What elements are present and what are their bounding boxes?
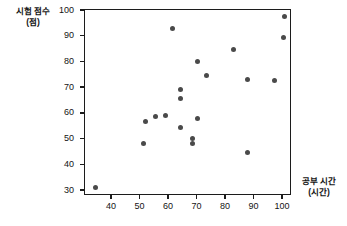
x-tick-mark [224, 195, 226, 199]
x-tick-mark [167, 195, 169, 199]
x-tick-label: 80 [214, 202, 236, 211]
y-axis-title-unit: (점) [2, 17, 64, 28]
y-tick-label: 100 [52, 6, 74, 15]
plot-frame [84, 9, 291, 195]
y-tick-mark [80, 112, 84, 114]
y-tick-mark [80, 86, 84, 88]
y-tick-label: 60 [52, 108, 74, 117]
y-tick-label: 50 [52, 134, 74, 143]
x-tick-label: 100 [271, 202, 293, 211]
x-tick-mark [253, 195, 255, 199]
x-tick-mark [196, 195, 198, 199]
y-tick-mark [80, 138, 84, 140]
y-tick-label: 90 [52, 31, 74, 40]
y-tick-label: 40 [52, 160, 74, 169]
x-tick-label: 70 [186, 202, 208, 211]
x-tick-label: 40 [100, 202, 122, 211]
y-tick-mark [80, 35, 84, 37]
x-tick-mark [281, 195, 283, 199]
scatter-plot-figure: 시험 점수 (점) 공부 시간 (시간) 30405060708090100 4… [0, 0, 347, 226]
x-tick-mark [139, 195, 141, 199]
x-axis-title-text: 공부 시간 [292, 176, 346, 187]
x-tick-label: 60 [157, 202, 179, 211]
x-axis-title-unit: (시간) [292, 187, 346, 198]
y-tick-label: 70 [52, 83, 74, 92]
x-tick-label: 50 [129, 202, 151, 211]
x-axis-title: 공부 시간 (시간) [292, 176, 346, 198]
y-tick-mark [80, 164, 84, 166]
y-tick-mark [80, 61, 84, 63]
y-tick-mark [80, 9, 84, 11]
x-tick-label: 90 [243, 202, 265, 211]
y-tick-label: 80 [52, 57, 74, 66]
y-tick-label: 30 [52, 186, 74, 195]
x-tick-mark [110, 195, 112, 199]
y-tick-mark [80, 189, 84, 191]
